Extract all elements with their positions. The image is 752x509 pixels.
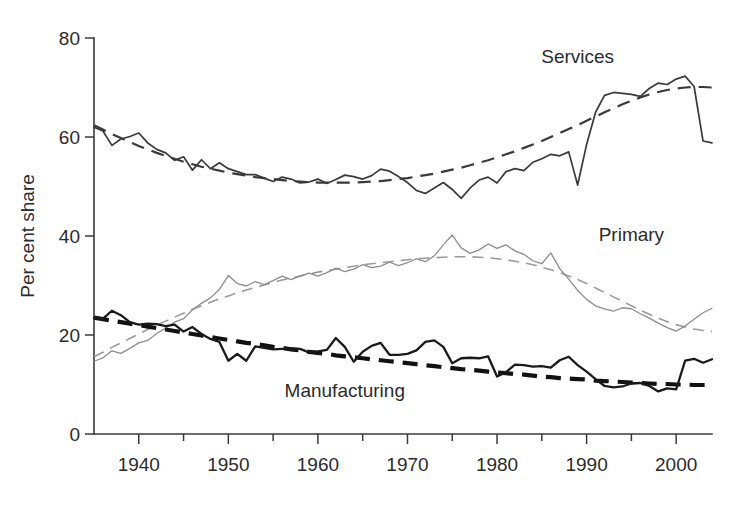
series-label-services: Services: [541, 46, 614, 67]
y-tick-label: 40: [59, 226, 80, 247]
chart-container: 0204060801940195019601970198019902000Per…: [0, 0, 752, 509]
series-line-primary-trend: [94, 257, 712, 357]
series-line-services: [94, 76, 712, 198]
series-line-primary: [94, 235, 712, 361]
series-line-manufacturing-trend: [94, 318, 712, 385]
y-tick-label: 60: [59, 127, 80, 148]
y-tick-label: 0: [69, 424, 80, 445]
y-tick-label: 20: [59, 325, 80, 346]
series-label-manufacturing: Manufacturing: [285, 380, 405, 401]
x-tick-label: 1940: [118, 454, 160, 475]
series-line-services-trend: [94, 87, 712, 183]
series-label-primary: Primary: [599, 224, 665, 245]
y-tick-label: 80: [59, 28, 80, 49]
x-tick-label: 1990: [565, 454, 607, 475]
x-tick-label: 2000: [655, 454, 697, 475]
x-tick-label: 1980: [476, 454, 518, 475]
x-tick-label: 1970: [386, 454, 428, 475]
x-tick-label: 1950: [207, 454, 249, 475]
y-axis-title: Per cent share: [17, 174, 38, 298]
x-tick-label: 1960: [297, 454, 339, 475]
line-chart-svg: 0204060801940195019601970198019902000Per…: [0, 0, 752, 509]
series-labels-group: ServicesPrimaryManufacturing: [285, 46, 665, 401]
